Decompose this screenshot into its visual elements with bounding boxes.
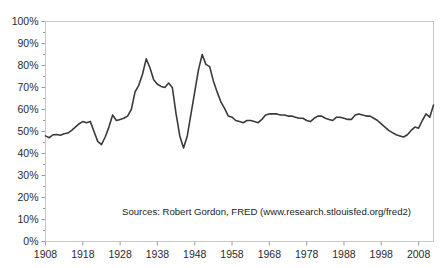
x-tick-label: 1958 <box>220 248 244 260</box>
y-tick-label: 70% <box>17 81 38 93</box>
chart-container: 0%10%20%30%40%50%60%70%80%90%100% 190819… <box>0 0 446 268</box>
x-tick-label: 2008 <box>407 248 431 260</box>
y-tick-label: 80% <box>17 59 38 71</box>
y-tick-label: 0% <box>23 235 38 247</box>
y-tick-label: 30% <box>17 169 38 181</box>
y-tick-label: 10% <box>17 213 38 225</box>
x-tick-label: 1938 <box>146 248 170 260</box>
source-note-text: Sources: Robert Gordon, FRED (www.resear… <box>122 206 411 217</box>
y-tick-label: 60% <box>17 103 38 115</box>
y-tick-label: 50% <box>17 125 38 137</box>
y-tick-label: 20% <box>17 191 38 203</box>
y-tick-label: 40% <box>17 147 38 159</box>
x-tick-label: 1928 <box>108 248 132 260</box>
x-tick-label: 1948 <box>183 248 207 260</box>
x-tick-label: 1918 <box>71 248 95 260</box>
x-tick-label: 1968 <box>258 248 282 260</box>
x-tick-label: 1988 <box>332 248 356 260</box>
x-tick-label: 1998 <box>370 248 394 260</box>
y-tick-label: 100% <box>12 15 39 27</box>
x-axis-tick-labels: 1908191819281938194819581968197819881998… <box>34 248 431 260</box>
x-tick-label: 1908 <box>34 248 58 260</box>
line-chart: 0%10%20%30%40%50%60%70%80%90%100% 190819… <box>0 0 446 268</box>
y-tick-label: 90% <box>17 37 38 49</box>
x-tick-label: 1978 <box>295 248 319 260</box>
